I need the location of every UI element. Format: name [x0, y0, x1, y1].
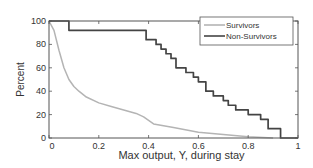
y-tick-label: 100	[31, 16, 46, 26]
x-tick-label: 0	[49, 141, 54, 151]
x-axis-label: Max output, Y, during stay	[118, 149, 245, 161]
x-tick-label: 0.2	[93, 141, 106, 151]
legend-label-survivors: Survivors	[226, 21, 259, 30]
survival-chart: 00.20.40.60.81020406080100 Max output, Y…	[0, 0, 313, 168]
y-tick-label: 60	[36, 63, 46, 73]
legend-label-non-survivors: Non-Survivors	[226, 32, 277, 41]
y-tick-label: 80	[36, 39, 46, 49]
y-tick-label: 40	[36, 86, 46, 96]
y-axis-label: Percent	[15, 62, 26, 97]
y-tick-label: 0	[41, 133, 46, 143]
x-tick-label: 1	[295, 141, 300, 151]
y-tick-label: 20	[36, 110, 46, 120]
chart-svg: 00.20.40.60.81020406080100 Max output, Y…	[0, 0, 313, 168]
legend: Survivors Non-Survivors	[200, 17, 293, 45]
